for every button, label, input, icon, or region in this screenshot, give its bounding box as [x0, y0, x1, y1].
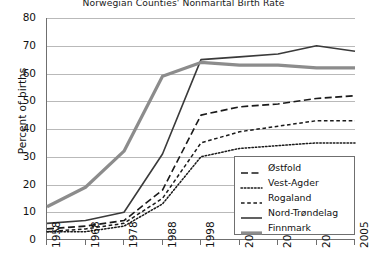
y-axis-tick-label: 70 [6, 40, 36, 51]
y-axis-tick-label: 30 [6, 151, 36, 162]
chart-legend: ØstfoldVest-AgderRogalandNord-TrøndelagF… [234, 156, 355, 235]
chart-title: Norwegian Counties' Nonmarital Birth Rat… [0, 0, 367, 8]
y-axis-tick-labels: 01020304050607080 [6, 0, 36, 280]
x-axis-tick-mark [85, 240, 86, 245]
legend-swatch-icon [240, 208, 263, 218]
y-axis-tick-label: 80 [6, 12, 36, 23]
x-axis-tick-mark [354, 240, 355, 245]
legend-label: Vest-Agder [268, 177, 319, 188]
legend-swatch-icon [240, 223, 263, 233]
x-axis-tick-mark [277, 240, 278, 245]
legend-label: Nord-Trøndelag [268, 207, 338, 218]
legend-label: Østfold [268, 162, 301, 173]
x-axis-tick-label: 1988 [166, 221, 178, 248]
x-axis-tick-label: 1968 [89, 221, 101, 248]
legend-swatch-icon [240, 178, 263, 188]
legend-label: Finnmark [268, 222, 311, 233]
y-axis-tick-label: 20 [6, 179, 36, 190]
x-axis-tick-label: 2005 [358, 221, 370, 248]
y-axis-tick-label: 40 [6, 123, 36, 134]
y-axis-tick-label: 10 [6, 206, 36, 217]
x-axis-tick-mark [200, 240, 201, 245]
x-axis-tick-label: 1958 [50, 221, 62, 248]
y-axis-tick-label: 60 [6, 68, 36, 79]
y-axis-tick-label: 50 [6, 95, 36, 106]
legend-item[interactable]: Rogaland [235, 190, 354, 205]
x-axis-tick-mark [239, 240, 240, 245]
x-axis-tick-mark [123, 240, 124, 245]
y-axis-tick-label: 0 [6, 234, 36, 245]
x-axis-tick-label: 1998 [204, 221, 216, 248]
x-axis-tick-mark [162, 240, 163, 245]
legend-item[interactable]: Nord-Trøndelag [235, 205, 354, 220]
x-axis-tick-label: 1978 [127, 221, 139, 248]
legend-swatch-icon [240, 193, 263, 203]
legend-swatch-icon [240, 163, 263, 173]
legend-item[interactable]: Finnmark [235, 220, 354, 235]
legend-item[interactable]: Vest-Agder [235, 175, 354, 190]
x-axis-tick-mark [46, 240, 47, 245]
legend-item[interactable]: Østfold [235, 160, 354, 175]
legend-label: Rogaland [268, 192, 311, 203]
x-axis-tick-mark [316, 240, 317, 245]
x-axis-tick-labels: 195819681978198819982002200320042005 [46, 240, 355, 250]
